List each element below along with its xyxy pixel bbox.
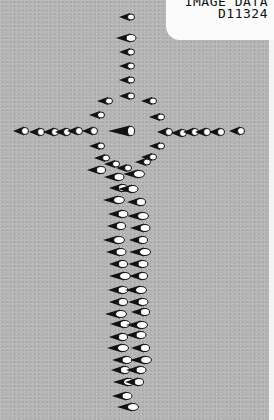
stone-left-arm xyxy=(29,128,45,137)
stone-shaft xyxy=(105,310,127,319)
stone-shaft xyxy=(131,344,150,353)
catalog-label: IMAGE DATA D11324 xyxy=(166,0,274,40)
stone-shaft xyxy=(109,272,131,281)
stone-ring xyxy=(89,142,105,150)
archival-photograph: IMAGE DATA D11324 xyxy=(0,0,274,420)
stone-top-arm xyxy=(119,92,135,100)
stone-shaft xyxy=(117,403,139,412)
stone-shaft xyxy=(131,308,150,317)
stone-right-arm xyxy=(209,128,225,137)
stone-shaft xyxy=(129,272,148,281)
stone-shaft xyxy=(127,198,146,207)
stone-top-arm xyxy=(119,62,135,70)
stone-shaft xyxy=(127,212,149,221)
stone-shaft xyxy=(107,222,126,231)
stone-top-arm xyxy=(119,48,135,56)
stone-ring xyxy=(94,154,110,162)
stone-shaft xyxy=(128,260,148,269)
stone-shaft xyxy=(125,286,147,295)
stone-right-arm xyxy=(229,127,245,136)
stone-right-arm xyxy=(171,129,187,138)
stone-shaft xyxy=(109,333,128,342)
stone-ring xyxy=(149,142,165,150)
stone-top-arm xyxy=(119,13,135,21)
catalog-number: D11324 xyxy=(218,6,268,21)
stone-shaft xyxy=(126,366,146,375)
stone-shaft xyxy=(130,224,150,233)
stone-ring xyxy=(97,97,113,105)
stone-shaft xyxy=(104,173,124,182)
stone-ring xyxy=(135,158,151,166)
stone-ring xyxy=(149,113,165,121)
film-edge xyxy=(269,0,274,420)
stone-shaft xyxy=(112,356,132,365)
stone-shaft xyxy=(109,260,128,269)
stone-shaft xyxy=(129,236,148,245)
stone-shaft xyxy=(128,298,148,307)
stone-shaft xyxy=(106,248,126,257)
stone-shaft xyxy=(108,210,128,219)
stone-shaft xyxy=(87,166,106,175)
stone-ring xyxy=(89,111,105,119)
stone-left-arm xyxy=(82,127,98,136)
stone-shaft xyxy=(103,196,125,205)
stone-top-arm xyxy=(119,76,135,84)
stone-left-arm xyxy=(13,127,29,136)
stone-shaft xyxy=(130,356,152,365)
stone-ring xyxy=(141,97,157,105)
stone-top-arm xyxy=(116,34,136,43)
stone-shaft xyxy=(110,320,130,329)
stone-shaft xyxy=(126,331,146,340)
stone-shaft xyxy=(103,236,125,245)
stone-shaft xyxy=(109,298,128,307)
stone-right-arm xyxy=(157,128,173,137)
stone-center xyxy=(108,126,135,137)
stone-shaft xyxy=(112,392,132,401)
stone-cross-layer xyxy=(0,0,274,420)
stone-shaft xyxy=(129,248,151,257)
stone-shaft xyxy=(107,344,129,353)
